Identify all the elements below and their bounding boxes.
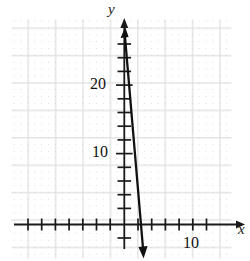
y-axis-label: y <box>108 2 115 17</box>
x-axis-label: x <box>238 222 245 237</box>
y-tick-label-10: 10 <box>92 144 108 160</box>
x-tick-label-10: 10 <box>183 235 199 251</box>
plot-canvas <box>0 0 250 261</box>
y-tick-label-20: 20 <box>90 76 106 92</box>
grid-major <box>12 20 232 259</box>
coordinate-plane-line-graph: y x 20 10 10 <box>0 0 250 261</box>
